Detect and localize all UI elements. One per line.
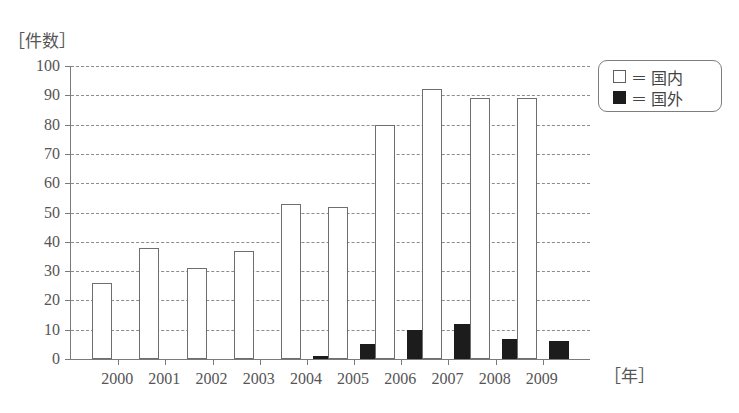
y-axis-label-10: 10 [14,322,60,338]
y-tick-90 [65,95,71,96]
y-axis-label-90: 90 [14,87,60,103]
bar-domestic-2006 [422,89,442,359]
legend-item-domestic: ＝ 国内 [613,66,721,87]
y-tick-80 [65,125,71,126]
y-axis-label-20: 20 [14,292,60,308]
y-axis-label-80: 80 [14,117,60,133]
bar-domestic-2007 [470,98,490,359]
x-axis-label-2004: 2004 [279,371,333,387]
bar-domestic-2001 [187,268,207,359]
gridline-y-90 [71,95,590,96]
black-square-icon [613,91,626,104]
y-axis-label-100: 100 [14,58,60,74]
x-axis-label-2003: 2003 [232,371,286,387]
bar-domestic-2003 [281,204,301,359]
y-axis-label-30: 30 [14,263,60,279]
x-tick-2004 [307,359,308,365]
x-axis-label-2009: 2009 [515,371,569,387]
y-axis-label-50: 50 [14,205,60,221]
x-axis-label-2006: 2006 [373,371,427,387]
y-tick-60 [65,183,71,184]
gridline-y-80 [71,125,590,126]
x-tick-2006 [401,359,402,365]
y-axis-label-40: 40 [14,234,60,250]
y-tick-20 [65,300,71,301]
legend-label-overseas: 国外 [651,86,683,110]
gridline-y-60 [71,183,590,184]
x-tick-2001 [165,359,166,365]
white-square-icon [613,70,626,83]
x-tick-2005 [354,359,355,365]
x-tick-2000 [118,359,119,365]
bar-overseas-2008 [549,341,569,359]
y-axis-label-70: 70 [14,146,60,162]
plot-area [70,66,590,360]
y-axis-unit-label: ［件数］ [8,27,76,52]
y-tick-70 [65,154,71,155]
plot-top-gridline [71,66,590,67]
y-tick-50 [65,213,71,214]
x-tick-2003 [260,359,261,365]
bar-domestic-2008 [517,98,537,359]
chart-legend: ＝ 国内 ＝ 国外 [598,60,722,112]
legend-equals-overseas: ＝ [631,86,647,110]
y-axis-label-60: 60 [14,175,60,191]
legend-item-overseas: ＝ 国外 [613,87,721,108]
x-axis-label-2008: 2008 [468,371,522,387]
bar-domestic-2004 [328,207,348,359]
x-axis-label-2001: 2001 [137,371,191,387]
x-axis-unit-label: ［年］ [604,362,655,387]
y-tick-0 [65,359,71,360]
x-axis-label-2007: 2007 [420,371,474,387]
bar-domestic-1999 [92,283,112,359]
y-tick-10 [65,330,71,331]
x-tick-2007 [448,359,449,365]
x-axis-label-2002: 2002 [185,371,239,387]
y-axis-label-0: 0 [14,351,60,367]
x-tick-2009 [543,359,544,365]
y-tick-30 [65,271,71,272]
x-tick-2008 [496,359,497,365]
bar-domestic-2002 [234,251,254,359]
x-axis-label-2000: 2000 [90,371,144,387]
y-tick-100 [65,66,71,67]
y-tick-40 [65,242,71,243]
x-tick-2002 [213,359,214,365]
x-axis-label-2005: 2005 [326,371,380,387]
bar-domestic-2005 [375,125,395,359]
gridline-y-70 [71,154,590,155]
bar-domestic-2000 [139,248,159,359]
bar-chart: ［件数］ ［年］ ＝ 国内 ＝ 国外 010203040506070809010… [0,0,739,413]
